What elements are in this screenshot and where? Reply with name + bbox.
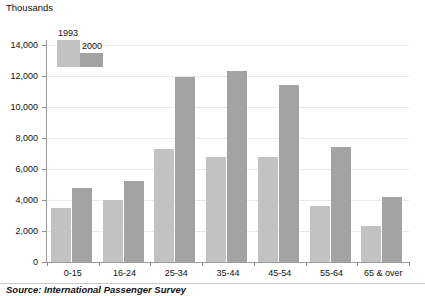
x-tick-mark bbox=[99, 262, 100, 266]
bar bbox=[175, 77, 195, 262]
y-tick-label: 8,000 bbox=[0, 133, 38, 143]
x-tick-mark bbox=[47, 262, 48, 266]
y-tick-label: 14,000 bbox=[0, 40, 38, 50]
bar bbox=[361, 226, 381, 262]
x-axis-line bbox=[46, 262, 409, 263]
y-tick-mark bbox=[42, 107, 46, 108]
x-tick-label: 55-64 bbox=[320, 268, 343, 278]
x-tick-mark bbox=[202, 262, 203, 266]
y-tick-label: 12,000 bbox=[0, 71, 38, 81]
y-tick-mark bbox=[42, 231, 46, 232]
bar bbox=[227, 71, 247, 262]
y-axis-unit-label: Thousands bbox=[6, 2, 53, 13]
y-tick-mark bbox=[42, 200, 46, 201]
x-tick-mark bbox=[306, 262, 307, 266]
x-tick-label: 16-24 bbox=[113, 268, 136, 278]
bar-group bbox=[47, 45, 99, 262]
bar bbox=[103, 200, 123, 262]
x-tick-label: 0-15 bbox=[64, 268, 82, 278]
bar-group bbox=[357, 45, 409, 262]
y-tick-mark bbox=[42, 138, 46, 139]
bar-group bbox=[254, 45, 306, 262]
x-tick-mark bbox=[254, 262, 255, 266]
bar bbox=[51, 208, 71, 262]
legend-label-1993: 1993 bbox=[58, 28, 78, 38]
bar bbox=[331, 147, 351, 262]
bar bbox=[206, 157, 226, 262]
y-tick-label: 10,000 bbox=[0, 102, 38, 112]
y-tick-label: 0 bbox=[0, 257, 38, 267]
x-tick-mark bbox=[150, 262, 151, 266]
plot-area bbox=[47, 45, 409, 262]
y-tick-label: 4,000 bbox=[0, 195, 38, 205]
bar bbox=[124, 181, 144, 262]
legend-label-2000: 2000 bbox=[82, 41, 102, 51]
x-tick-label: 35-44 bbox=[216, 268, 239, 278]
bar-chart: Thousands 02,0004,0006,0008,00010,00012,… bbox=[0, 0, 425, 296]
x-tick-mark bbox=[357, 262, 358, 266]
x-tick-label: 25-34 bbox=[165, 268, 188, 278]
bar-group bbox=[306, 45, 358, 262]
x-tick-label: 65 & over bbox=[364, 268, 403, 278]
y-tick-mark bbox=[42, 262, 46, 263]
legend-swatch-1993 bbox=[57, 40, 80, 67]
bar bbox=[310, 206, 330, 262]
bar bbox=[72, 188, 92, 262]
x-tick-label: 45-54 bbox=[268, 268, 291, 278]
source-note: Source: International Passenger Survey bbox=[6, 284, 186, 295]
bar-group bbox=[99, 45, 151, 262]
bar bbox=[279, 85, 299, 262]
y-tick-mark bbox=[42, 45, 46, 46]
y-tick-mark bbox=[42, 76, 46, 77]
bar bbox=[154, 149, 174, 262]
bar bbox=[258, 157, 278, 262]
bar-group bbox=[202, 45, 254, 262]
legend-swatch-2000 bbox=[80, 53, 103, 67]
y-tick-mark bbox=[42, 169, 46, 170]
y-tick-label: 2,000 bbox=[0, 226, 38, 236]
bar bbox=[382, 197, 402, 262]
y-tick-label: 6,000 bbox=[0, 164, 38, 174]
x-tick-mark bbox=[409, 262, 410, 266]
bar-group bbox=[150, 45, 202, 262]
